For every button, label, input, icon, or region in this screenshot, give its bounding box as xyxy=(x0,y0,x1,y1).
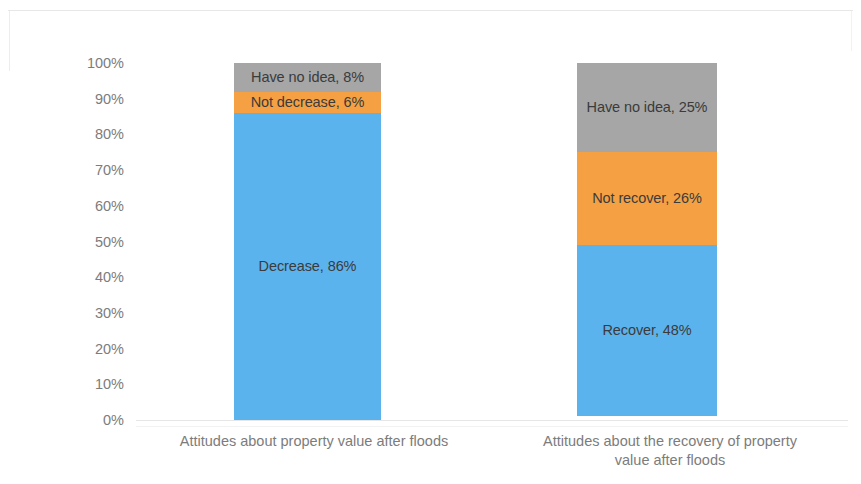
x-axis-category-labels: Attitudes about property value after flo… xyxy=(136,432,848,482)
category-label-line: Attitudes about the recovery of property xyxy=(492,432,848,451)
y-axis-tick: 50% xyxy=(60,234,124,249)
y-axis-tick: 10% xyxy=(60,377,124,392)
stacked-column-chart: 100% 90% 80% 70% 60% 50% 40% 30% 20% 10%… xyxy=(0,0,861,484)
y-axis-tick: 60% xyxy=(60,199,124,214)
y-axis-tick: 20% xyxy=(60,341,124,356)
category-label-line: Attitudes about property value after flo… xyxy=(136,432,492,451)
segment-label: Recover, 48% xyxy=(602,323,691,338)
segment-label: Decrease, 86% xyxy=(259,259,357,274)
y-axis-tick: 70% xyxy=(60,163,124,178)
y-axis: 100% 90% 80% 70% 60% 50% 40% 30% 20% 10%… xyxy=(60,63,130,420)
segment-not-recover[interactable]: Not recover, 26% xyxy=(577,152,717,245)
category-label-line: value after floods xyxy=(492,451,848,470)
category-label-1: Attitudes about the recovery of property… xyxy=(492,432,848,470)
segment-label: Have no idea, 8% xyxy=(251,70,364,85)
column-series-0[interactable]: Have no idea, 8% Not decrease, 6% Decrea… xyxy=(234,63,381,420)
segment-have-no-idea[interactable]: Have no idea, 8% xyxy=(234,63,381,92)
segment-not-decrease[interactable]: Not decrease, 6% xyxy=(234,92,381,113)
y-axis-tick: 80% xyxy=(60,127,124,142)
x-axis-line-faint xyxy=(136,426,848,427)
segment-label: Not decrease, 6% xyxy=(251,95,365,110)
y-axis-tick: 90% xyxy=(60,91,124,106)
y-axis-tick: 0% xyxy=(60,413,124,428)
plot-area: Have no idea, 8% Not decrease, 6% Decrea… xyxy=(136,63,848,420)
segment-decrease[interactable]: Decrease, 86% xyxy=(234,113,381,420)
segment-have-no-idea[interactable]: Have no idea, 25% xyxy=(577,63,717,152)
y-axis-tick: 30% xyxy=(60,306,124,321)
segment-label: Have no idea, 25% xyxy=(587,100,708,115)
x-axis-line xyxy=(136,420,848,421)
category-label-0: Attitudes about property value after flo… xyxy=(136,432,492,451)
y-axis-tick: 100% xyxy=(60,56,124,71)
column-series-1[interactable]: Have no idea, 25% Not recover, 26% Recov… xyxy=(577,63,717,420)
y-axis-tick: 40% xyxy=(60,270,124,285)
segment-recover[interactable]: Recover, 48% xyxy=(577,245,717,416)
segment-label: Not recover, 26% xyxy=(592,191,702,206)
